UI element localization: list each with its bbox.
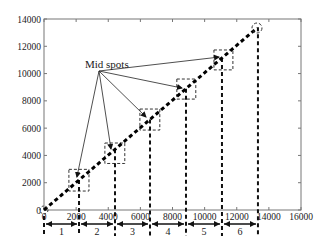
plot-axes: 0200040006000800010000120001400016000020… xyxy=(17,15,313,223)
x-tick-label: 10000 xyxy=(193,212,217,222)
y-tick-label: 2000 xyxy=(22,178,41,188)
segment-label: 5 xyxy=(201,226,206,237)
segment-label: 1 xyxy=(59,226,64,237)
segment-boundary-lines xyxy=(44,27,258,236)
mid-spot-box xyxy=(214,50,233,70)
y-tick-label: 0 xyxy=(36,206,41,216)
mid-spot-arrow xyxy=(99,71,146,117)
x-tick-label: 2000 xyxy=(67,212,86,222)
x-tick-label: 6000 xyxy=(131,212,150,222)
y-tick-label: 14000 xyxy=(17,15,41,25)
x-tick-label: 8000 xyxy=(163,212,182,222)
y-tick-label: 8000 xyxy=(22,96,41,106)
mid-spot-arrow xyxy=(99,71,182,88)
x-tick-label: 14000 xyxy=(257,212,281,222)
segment-label: 6 xyxy=(237,226,242,237)
y-tick-label: 4000 xyxy=(22,151,41,161)
mid-spots-annotation: Mid spots xyxy=(77,57,219,177)
segment-label: 3 xyxy=(130,226,135,237)
plot-frame xyxy=(44,19,301,210)
x-tick-label: 12000 xyxy=(225,212,249,222)
mid-spot-arrow xyxy=(99,71,111,149)
x-tick-label: 16000 xyxy=(289,212,313,222)
y-tick-label: 12000 xyxy=(17,42,41,52)
mid-spots-chart: 0200040006000800010000120001400016000020… xyxy=(0,0,328,248)
mid-spot-arrow xyxy=(77,71,99,177)
segment-label: 4 xyxy=(166,226,171,237)
segment-label: 2 xyxy=(95,226,100,237)
y-tick-label: 6000 xyxy=(22,124,41,134)
y-tick-label: 10000 xyxy=(17,69,41,79)
chart-canvas: 0200040006000800010000120001400016000020… xyxy=(0,0,328,248)
